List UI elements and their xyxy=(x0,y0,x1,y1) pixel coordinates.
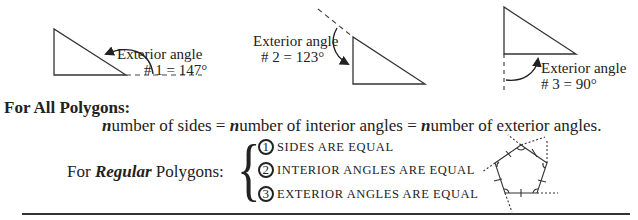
regular-polygons-heading: For Regular Polygons: xyxy=(67,162,224,182)
heading-emphasis: Regular xyxy=(95,162,152,181)
pentagon-extension xyxy=(505,193,512,212)
equation-part: umber of interior angles = xyxy=(239,116,421,135)
property-text: INTERIOR ANGLES ARE EQUAL xyxy=(277,163,475,178)
angle-arc xyxy=(517,148,525,150)
number-circle-icon: 1 xyxy=(258,139,274,155)
number-circle-icon: 2 xyxy=(258,162,274,178)
pentagon-extension xyxy=(521,137,545,145)
label-value: # 1 = 147° xyxy=(117,62,207,78)
angle-arc xyxy=(543,163,545,168)
exterior-angle-label-1: Exterior angle # 1 = 147° xyxy=(117,46,207,78)
horizontal-divider xyxy=(22,213,630,215)
angle-arrow-3 xyxy=(506,59,538,80)
triangle-3 xyxy=(504,7,576,54)
exterior-angle-label-2: Exterior angle # 2 = 123° xyxy=(253,33,338,65)
label-line: Exterior angle xyxy=(253,33,338,49)
heading-part: Polygons: xyxy=(152,162,224,181)
label-value: # 2 = 123° xyxy=(253,49,338,65)
n-symbol: n xyxy=(421,116,430,135)
label-line: Exterior angle xyxy=(117,46,207,62)
pentagon-extension xyxy=(508,135,521,145)
property-text: SIDES ARE EQUAL xyxy=(277,140,394,155)
all-polygons-equation: number of sides = number of interior ang… xyxy=(102,116,601,136)
triangle-1 xyxy=(54,29,126,75)
triangle-2 xyxy=(353,37,425,84)
curly-brace: { xyxy=(237,140,261,200)
equation-part: umber of exterior angles. xyxy=(431,116,602,135)
property-item: 3 EXTERIOR ANGLES ARE EQUAL xyxy=(258,182,478,206)
exterior-angle-label-3: Exterior angle # 3 = 90° xyxy=(541,60,626,92)
property-text: EXTERIOR ANGLES ARE EQUAL xyxy=(277,187,478,202)
pentagon-extension xyxy=(482,163,495,172)
side-tick xyxy=(538,180,546,182)
angle-arc xyxy=(497,162,499,167)
number-circle-icon: 3 xyxy=(258,186,274,202)
property-item: 1 SIDES ARE EQUAL xyxy=(258,136,478,158)
label-line: Exterior angle xyxy=(541,60,626,76)
regular-properties-list: 1 SIDES ARE EQUAL 2 INTERIOR ANGLES ARE … xyxy=(258,136,478,206)
pentagon xyxy=(495,145,547,193)
regular-pentagon-diagram xyxy=(482,135,558,212)
all-polygons-heading: For All Polygons: xyxy=(4,98,130,118)
heading-part: For xyxy=(67,162,95,181)
equation-part: umber of sides = xyxy=(111,116,229,135)
label-value: # 3 = 90° xyxy=(541,76,626,92)
property-item: 2 INTERIOR ANGLES ARE EQUAL xyxy=(258,158,478,182)
